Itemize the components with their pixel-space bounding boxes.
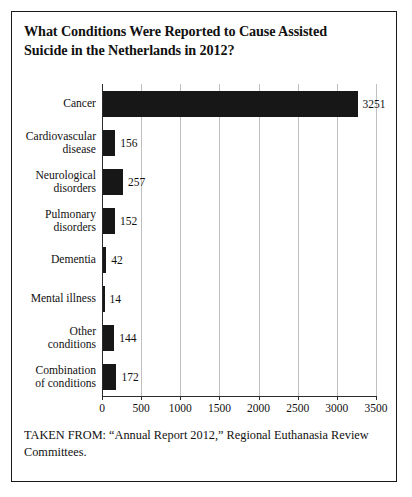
category-label: Mental illness [12,292,96,306]
x-tick-label: 2500 [286,402,309,414]
x-tick-1000 [180,396,181,400]
figure-frame: What Conditions Were Reported to Cause A… [11,11,397,482]
chart-title-line-2: Suicide in the Netherlands in 2012? [24,41,386,60]
bar-value-label: 257 [128,176,145,188]
x-tick-500 [141,396,142,400]
source-note: TAKEN FROM: “Annual Report 2012,” Region… [24,427,384,461]
bar [103,325,114,351]
x-tick-3500 [376,396,377,400]
bar [103,247,106,273]
chart-row: Neurologicaldisorders257 [12,162,396,201]
x-tick-label: 0 [99,402,105,414]
category-label: Cancer [12,97,96,111]
category-label: Neurologicaldisorders [12,168,96,195]
x-tick-label: 2000 [247,402,270,414]
bar-value-label: 14 [110,293,122,305]
bar [103,91,358,117]
chart-row: Combinationof conditions172 [12,357,396,396]
category-label: Otherconditions [12,324,96,351]
x-tick-label: 3000 [325,402,348,414]
x-tick-0 [102,396,103,400]
bar-value-label: 144 [119,332,136,344]
chart-row: Otherconditions144 [12,318,396,357]
bar [103,208,115,234]
x-axis-line [102,396,377,397]
bar-value-label: 42 [111,254,123,266]
x-tick-label: 1500 [208,402,231,414]
chart-row: Dementia42 [12,240,396,279]
x-tick-2500 [298,396,299,400]
chart-row: Pulmonarydisorders152 [12,201,396,240]
chart-title-line-1: What Conditions Were Reported to Cause A… [24,22,386,41]
category-label: Combinationof conditions [12,363,96,390]
category-label: Cardiovasculardisease [12,129,96,156]
chart-title: What Conditions Were Reported to Cause A… [24,22,386,60]
chart-row: Cancer3251 [12,84,396,123]
chart-row: Cardiovasculardisease156 [12,123,396,162]
bar-value-label: 3251 [363,98,386,110]
bar [103,169,123,195]
bar-chart: 0500100015002000250030003500Cancer3251Ca… [12,72,396,417]
bar [103,130,115,156]
bar-value-label: 152 [120,215,137,227]
bar [103,286,105,312]
bar [103,364,116,390]
chart-row: Mental illness14 [12,279,396,318]
x-tick-label: 1000 [169,402,192,414]
x-tick-label: 500 [133,402,150,414]
x-tick-3000 [337,396,338,400]
bar-value-label: 156 [120,137,137,149]
x-tick-1500 [219,396,220,400]
x-tick-label: 3500 [365,402,388,414]
category-label: Dementia [12,253,96,267]
bar-value-label: 172 [121,371,138,383]
x-tick-2000 [259,396,260,400]
category-label: Pulmonarydisorders [12,207,96,234]
